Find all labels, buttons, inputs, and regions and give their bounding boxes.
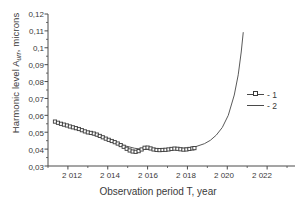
series-1-marker [193,147,196,150]
plot-area [0,0,302,209]
chart-container: Harmonic level Aurr, microns 0,12 0,11 0… [0,0,302,209]
